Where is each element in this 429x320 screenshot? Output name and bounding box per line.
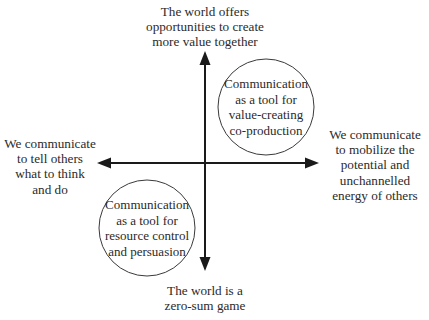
arrow-up-icon xyxy=(200,51,211,65)
axis-label-top: The world offers opportunities to create… xyxy=(125,4,285,50)
axis-label-left: We communicate to tell others what to th… xyxy=(2,136,98,197)
circle-text-top-right: Communication as a tool for value-creati… xyxy=(218,76,314,138)
axis-label-bottom: The world is a zero-sum game xyxy=(150,283,260,313)
axis-label-right: We communicate to mobilize the potential… xyxy=(322,127,428,203)
arrow-down-icon xyxy=(200,257,211,271)
circle-text-bottom-left: Communication as a tool for resource con… xyxy=(97,197,197,259)
arrow-left-icon xyxy=(97,158,111,169)
arrow-right-icon xyxy=(305,158,319,169)
